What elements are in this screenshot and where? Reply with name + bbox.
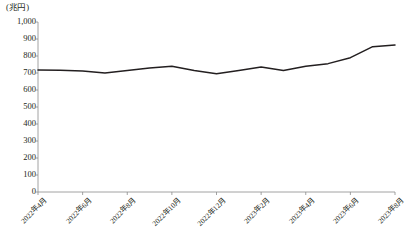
x-axis-tick-label-text: 2022年8月 [108,196,137,225]
x-axis-tick-label-text: 2023年4月 [287,196,316,225]
x-axis-tick-label-text: 2022年4月 [19,196,48,225]
x-axis-tick-label-text: 2023年2月 [242,196,271,225]
x-axis-tick-label-text: 2022年6月 [64,196,93,225]
x-axis-tick-label-text: 2023年6月 [331,196,360,225]
x-axis-tick-label-text: 2023年8月 [376,196,405,225]
x-axis-tick-label-text: 2022年10月 [150,196,182,228]
x-axis-tick-label-text: 2022年12月 [195,196,227,228]
x-axis-tick-label: 2022年4月 [0,196,48,240]
